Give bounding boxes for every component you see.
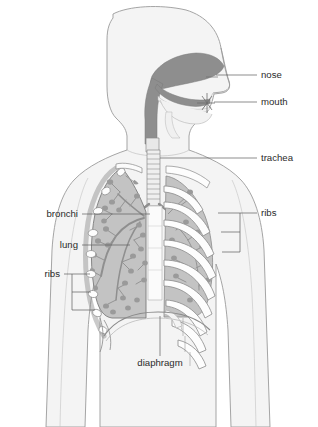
sternum [148, 206, 162, 300]
label-diaphragm: diaphragm [137, 357, 182, 368]
diagram-page: nose mouth trachea ribs bronchi lung rib… [0, 0, 318, 427]
label-nose: nose [261, 69, 282, 80]
label-mouth: mouth [261, 96, 288, 107]
label-ribs-left: ribs [45, 268, 61, 279]
label-trachea: trachea [261, 152, 294, 163]
label-lung: lung [60, 239, 78, 250]
label-ribs-right: ribs [261, 207, 277, 218]
sternum-column [148, 206, 162, 300]
respiratory-system-diagram: nose mouth trachea ribs bronchi lung rib… [0, 0, 318, 427]
label-bronchi: bronchi [47, 208, 78, 219]
trachea-tube [147, 150, 160, 206]
